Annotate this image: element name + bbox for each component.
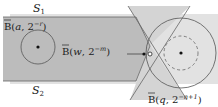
ball-a-center: [36, 45, 39, 48]
point-w: [142, 52, 145, 55]
label-s2: S2: [32, 84, 44, 98]
point-open: [148, 52, 152, 56]
label-ball-q: B(q, 2−n+1): [148, 93, 202, 105]
svg-text:B(q, 2−n+1): B(q, 2−n+1): [148, 93, 202, 105]
label-s1: S1: [33, 2, 45, 16]
diagram-canvas: S1 S2 B(a, 2−r) B(w, 2−m) B(q, 2−n+1): [0, 0, 218, 107]
ball-q-center: [179, 51, 182, 54]
